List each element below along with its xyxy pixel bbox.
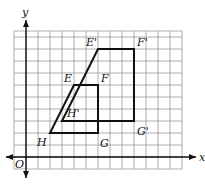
coordinate-grid-diagram: xyOEFGHE'F'G'H' bbox=[0, 0, 205, 184]
x-axis-arrow-left-icon bbox=[6, 154, 13, 160]
x-axis-arrow-right-icon bbox=[189, 154, 196, 160]
y-axis-label: y bbox=[21, 6, 29, 19]
vertex-label-e-prime: E' bbox=[85, 36, 97, 49]
vertex-label-h: H bbox=[36, 136, 47, 149]
vertex-label-g: G bbox=[100, 137, 109, 150]
vertex-label-g-prime: G' bbox=[137, 125, 149, 138]
grid-plot: xyOEFGHE'F'G'H' bbox=[0, 0, 205, 184]
x-axis-label: x bbox=[199, 151, 205, 164]
y-axis-arrow-up-icon bbox=[23, 20, 29, 27]
vertex-label-h-prime: H' bbox=[66, 107, 80, 120]
vertex-label-e: E bbox=[63, 72, 72, 85]
origin-label: O bbox=[15, 158, 24, 171]
vertex-label-f-prime: F' bbox=[136, 36, 148, 49]
vertex-label-f: F bbox=[100, 72, 109, 85]
y-axis-arrow-down-icon bbox=[23, 171, 29, 178]
